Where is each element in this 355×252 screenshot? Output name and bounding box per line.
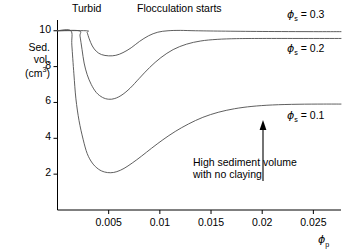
phi-value: 0.3 — [310, 8, 325, 20]
y-tick-label: 8 — [0, 60, 51, 72]
y-axis-title-line1: Sed. — [6, 42, 50, 54]
phi-value: 0.2 — [310, 42, 325, 54]
x-axis-ticks — [109, 210, 314, 214]
region-label-turbid: Turbid — [72, 3, 101, 15]
arrow-head — [260, 120, 267, 130]
chart-plot-area — [0, 0, 355, 252]
annotation-high-sediment-volume: High sediment volume with no claying — [193, 157, 297, 181]
x-axis-subscript: p — [325, 240, 329, 249]
y-tick-label: 4 — [0, 131, 51, 143]
phi-equals: = — [298, 109, 310, 121]
series-label-phis-02: ϕs = 0.2 — [287, 43, 324, 57]
phi-equals: = — [298, 8, 310, 20]
y-tick-label: 10 — [0, 24, 51, 36]
series-label-phis-03: ϕs = 0.3 — [287, 9, 324, 23]
region-label-flocculation: Flocculation starts — [137, 3, 222, 15]
x-axis-title: ϕp — [318, 229, 329, 249]
annotation-line2: with no claying — [193, 169, 297, 181]
curve-0-2 — [58, 30, 342, 99]
y-tick-label: 2 — [0, 167, 51, 179]
sediment-volume-chart: Sed. vol. (cm3) ϕp Turbid Flocculation s… — [0, 0, 355, 252]
series-label-phis-01: ϕs = 0.1 — [287, 110, 324, 124]
y-axis-ticks — [54, 31, 58, 174]
x-tick-label: 0.025 — [283, 217, 343, 229]
y-tick-label: 6 — [0, 95, 51, 107]
phi-equals: = — [298, 42, 310, 54]
phi-value: 0.1 — [310, 109, 325, 121]
annotation-line1: High sediment volume — [193, 157, 297, 169]
